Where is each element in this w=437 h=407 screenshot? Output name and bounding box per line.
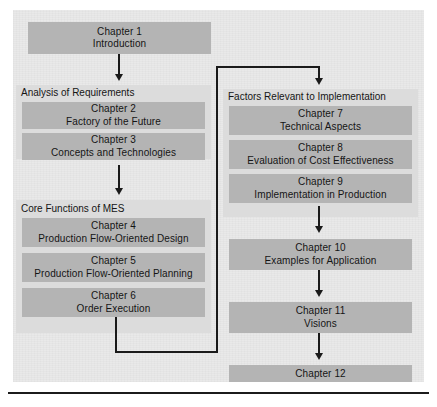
arrowhead-chapter9-to-chapter10 xyxy=(315,226,323,233)
footer-rule xyxy=(8,392,429,394)
group-analysis-title: Analysis of Requirements xyxy=(21,87,134,99)
arrowhead-chapter11-to-chapter12 xyxy=(315,353,323,360)
node-chapter-9-line1: Chapter 9 xyxy=(298,176,343,189)
node-chapter-4: Chapter 4 Production Flow-Oriented Desig… xyxy=(22,218,205,247)
node-chapter-8: Chapter 8 Evaluation of Cost Effectivene… xyxy=(229,140,412,169)
arrowhead-chapter1-to-analysis xyxy=(115,74,123,81)
node-chapter-1: Chapter 1 Introduction xyxy=(28,22,211,54)
connector-analysis-to-core xyxy=(118,165,120,190)
node-chapter-7: Chapter 7 Technical Aspects xyxy=(229,106,412,135)
node-chapter-6: Chapter 6 Order Execution xyxy=(22,288,205,317)
node-chapter-11: Chapter 11 Visions xyxy=(229,302,412,333)
connector-core-to-factors-right xyxy=(115,351,218,353)
arrowhead-chapter10-to-chapter11 xyxy=(315,290,323,297)
node-chapter-2-line1: Chapter 2 xyxy=(91,103,136,116)
node-chapter-7-line2: Technical Aspects xyxy=(280,121,361,134)
arrowhead-core-to-factors xyxy=(315,78,323,85)
connector-chapter10-to-chapter11 xyxy=(318,270,320,292)
node-chapter-6-line1: Chapter 6 xyxy=(91,290,136,303)
node-chapter-4-line1: Chapter 4 xyxy=(91,220,136,233)
node-chapter-8-line1: Chapter 8 xyxy=(298,142,343,155)
node-chapter-10-line2: Examples for Application xyxy=(265,255,377,268)
connector-chapter1-to-analysis xyxy=(118,54,120,76)
node-chapter-9-line2: Implementation in Production xyxy=(254,189,386,202)
figure-panel: Chapter 1 Introduction Analysis of Requi… xyxy=(13,10,424,382)
node-chapter-12: Chapter 12 Summary of the Book xyxy=(229,365,412,382)
connector-core-to-factors-down xyxy=(115,317,117,353)
connector-chapter11-to-chapter12 xyxy=(318,333,320,355)
node-chapter-5: Chapter 5 Production Flow-Oriented Plann… xyxy=(22,253,205,282)
group-factors-title: Factors Relevant to Implementation xyxy=(228,91,386,103)
connector-chapter9-to-chapter10 xyxy=(318,206,320,228)
node-chapter-3: Chapter 3 Concepts and Technologies xyxy=(22,133,205,160)
node-chapter-10-line1: Chapter 10 xyxy=(295,242,345,255)
node-chapter-5-line1: Chapter 5 xyxy=(91,255,136,268)
node-chapter-4-line2: Production Flow-Oriented Design xyxy=(38,233,188,246)
node-chapter-5-line2: Production Flow-Oriented Planning xyxy=(34,268,192,281)
arrowhead-analysis-to-core xyxy=(115,188,123,195)
node-chapter-2: Chapter 2 Factory of the Future xyxy=(22,102,205,129)
node-chapter-7-line1: Chapter 7 xyxy=(298,108,343,121)
node-chapter-1-line2: Introduction xyxy=(93,38,146,51)
node-chapter-6-line2: Order Execution xyxy=(77,303,151,316)
node-chapter-8-line2: Evaluation of Cost Effectiveness xyxy=(247,155,393,168)
node-chapter-11-line2: Visions xyxy=(304,318,337,331)
node-chapter-12-line2: Summary of the Book xyxy=(271,381,369,383)
node-chapter-3-line1: Chapter 3 xyxy=(91,134,136,147)
node-chapter-1-line1: Chapter 1 xyxy=(97,26,142,39)
node-chapter-12-line1: Chapter 12 xyxy=(295,368,345,381)
group-core-title: Core Functions of MES xyxy=(21,203,124,215)
node-chapter-11-line1: Chapter 11 xyxy=(296,305,346,318)
connector-core-to-factors-up xyxy=(216,66,218,353)
connector-core-to-factors-top xyxy=(216,66,320,68)
node-chapter-9: Chapter 9 Implementation in Production xyxy=(229,174,412,203)
node-chapter-2-line2: Factory of the Future xyxy=(66,116,161,129)
node-chapter-10: Chapter 10 Examples for Application xyxy=(229,239,412,270)
node-chapter-3-line2: Concepts and Technologies xyxy=(51,147,176,160)
